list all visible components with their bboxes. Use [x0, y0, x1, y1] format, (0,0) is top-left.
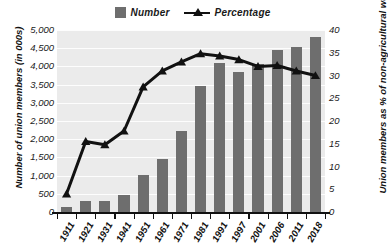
x-axis-label[interactable]: 2018 [305, 220, 325, 244]
x-tick-mark [76, 212, 77, 219]
x-axis-label[interactable]: 2006 [267, 220, 287, 244]
x-label-slot: 2006 [268, 219, 287, 251]
x-axis-label[interactable]: 1941 [113, 220, 133, 244]
square-swatch-icon [115, 7, 126, 18]
line-series-percentage [57, 30, 325, 212]
x-tick-mark [306, 212, 307, 219]
x-axis-label[interactable]: 1931 [94, 220, 114, 244]
x-tick-mark [325, 212, 326, 219]
left-axis-tick-label: 5,000 [0, 25, 54, 35]
right-axis-tick-label: 25 [329, 93, 340, 103]
x-tick-mark [134, 212, 135, 219]
right-axis-title: Union members as % of non-agricultural w… [377, 14, 388, 194]
left-axis-tick-label: 4,500 [0, 43, 54, 53]
x-axis-labels: 1911192119311941195119611971198119911997… [57, 219, 325, 251]
x-tick-mark [287, 212, 288, 219]
x-axis-label[interactable]: 1921 [75, 220, 95, 244]
x-label-slot: 1941 [114, 219, 133, 251]
legend-item-percentage[interactable]: Percentage [184, 7, 271, 18]
x-label-slot: 1971 [172, 219, 191, 251]
right-axis-tick-label: 15 [329, 139, 340, 149]
right-axis-tick-label: 35 [329, 48, 340, 58]
triangle-marker-icon [193, 8, 203, 16]
right-axis-tick-label: 5 [329, 184, 334, 194]
percentage-line [67, 54, 316, 194]
left-axis-tick-label: 1,000 [0, 171, 54, 181]
x-label-slot: 2001 [248, 219, 267, 251]
x-tick-mark [95, 212, 96, 219]
chart-legend: Number Percentage [0, 2, 385, 22]
x-axis-label[interactable]: 1997 [228, 220, 248, 244]
left-axis-tick-label: 2,500 [0, 116, 54, 126]
x-label-slot: 1931 [95, 219, 114, 251]
x-label-slot: 2011 [287, 219, 306, 251]
right-axis-tick-label: 30 [329, 71, 340, 81]
left-axis-tick-label: 3,500 [0, 80, 54, 90]
right-axis-tick-label: 20 [329, 116, 340, 126]
right-axis-tick-label: 40 [329, 25, 340, 35]
x-axis-label[interactable]: 1991 [209, 220, 229, 244]
x-label-slot: 1921 [76, 219, 95, 251]
x-tick-mark [268, 212, 269, 219]
x-tick-mark [153, 212, 154, 219]
left-axis-tick-label: 4,000 [0, 61, 54, 71]
x-label-slot: 1951 [134, 219, 153, 251]
legend-label-percentage: Percentage [215, 7, 271, 18]
x-axis-label[interactable]: 2011 [286, 220, 306, 243]
x-tick-mark [114, 212, 115, 219]
x-axis-label[interactable]: 1961 [152, 220, 172, 244]
x-label-slot: 1911 [57, 219, 76, 251]
line-triangle-icon [184, 7, 210, 18]
x-tick-mark [172, 212, 173, 219]
triangle-marker-icon[interactable] [119, 127, 128, 135]
x-axis-label[interactable]: 1911 [56, 220, 76, 243]
x-label-slot: 1991 [210, 219, 229, 251]
x-tick-mark [248, 212, 249, 219]
x-tick-mark [229, 212, 230, 219]
left-axis-tick-label: 0 [0, 207, 54, 217]
triangle-marker-icon[interactable] [62, 189, 71, 197]
x-label-slot: 1981 [191, 219, 210, 251]
x-tick-mark [191, 212, 192, 219]
x-label-slot: 1997 [229, 219, 248, 251]
x-axis-label[interactable]: 1951 [133, 220, 153, 244]
x-axis-label[interactable]: 1981 [190, 220, 210, 244]
plot-area [57, 30, 325, 212]
right-axis-tick-label: 10 [329, 162, 340, 172]
left-axis-tick-label: 500 [0, 189, 54, 199]
x-label-slot: 1961 [153, 219, 172, 251]
x-axis-label[interactable]: 2001 [247, 220, 267, 244]
x-tick-mark [57, 212, 58, 219]
x-label-slot: 2018 [306, 219, 325, 251]
left-axis-tick-label: 3,000 [0, 98, 54, 108]
legend-label-number: Number [131, 7, 170, 18]
legend-item-number[interactable]: Number [115, 7, 170, 18]
left-axis-tick-label: 1,500 [0, 152, 54, 162]
x-axis-label[interactable]: 1971 [171, 220, 191, 244]
left-axis-tick-label: 2,000 [0, 134, 54, 144]
x-tick-mark [210, 212, 211, 219]
